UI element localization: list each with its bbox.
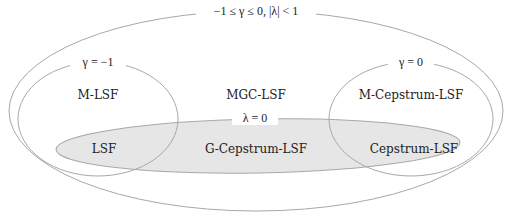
m-lsf-region-label: M-LSF (78, 88, 119, 102)
lambda-zero-label: λ = 0 (243, 111, 268, 125)
cepstrum-lsf-region-label: Cepstrum-LSF (370, 142, 458, 156)
mgc-lsf-region-label: MGC-LSF (226, 88, 286, 102)
lsf-region-label: LSF (92, 142, 117, 156)
venn-diagram: −1 ≤ γ ≤ 0, |λ| < 1 γ = −1 γ = 0 λ = 0 M… (0, 0, 512, 216)
gamma-minus-one-label: γ = −1 (82, 55, 114, 69)
gamma-zero-label: γ = 0 (398, 55, 423, 69)
outer-set-label: −1 ≤ γ ≤ 0, |λ| < 1 (214, 4, 299, 18)
g-cepstrum-lsf-region-label: G-Cepstrum-LSF (205, 142, 307, 156)
m-cepstrum-lsf-region-label: M-Cepstrum-LSF (359, 88, 464, 102)
